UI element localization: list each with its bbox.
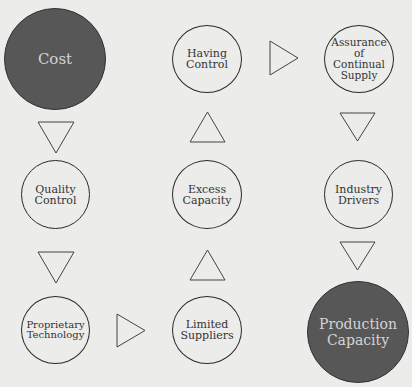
node-limited-suppliers: Limited Suppliers [172, 296, 242, 364]
node-production-capacity: Production Capacity [307, 281, 409, 383]
node-excess-capacity-label: Excess Capacity [183, 184, 232, 206]
arrow-down-icon [37, 251, 75, 284]
node-proprietary-technology: Proprietary Technology [21, 296, 90, 364]
arrow-down-icon [37, 121, 75, 154]
node-cost-label: Cost [38, 52, 72, 67]
node-industry-drivers: Industry Drivers [324, 160, 393, 229]
arrow-up-icon [189, 111, 226, 143]
node-having-control-label: Having Control [186, 48, 228, 70]
arrow-right-icon [116, 313, 146, 348]
node-limited-suppliers-label: Limited Suppliers [180, 319, 233, 341]
node-cost: Cost [4, 8, 106, 110]
node-proprietary-technology-label: Proprietary Technology [26, 320, 84, 341]
node-having-control: Having Control [172, 25, 242, 93]
node-excess-capacity: Excess Capacity [172, 160, 242, 229]
arrow-down-icon [339, 241, 376, 271]
node-assurance-of-continual-supply: Assurance of Continual Supply [324, 25, 394, 93]
node-quality-control: Quality Control [21, 160, 90, 229]
node-production-capacity-label: Production Capacity [319, 316, 397, 348]
arrow-right-icon [269, 40, 299, 76]
node-quality-control-label: Quality Control [35, 184, 77, 206]
arrow-up-icon [189, 249, 226, 281]
arrow-down-icon [339, 112, 376, 142]
node-industry-drivers-label: Industry Drivers [335, 184, 382, 206]
node-assurance-label: Assurance of Continual Supply [331, 37, 386, 81]
